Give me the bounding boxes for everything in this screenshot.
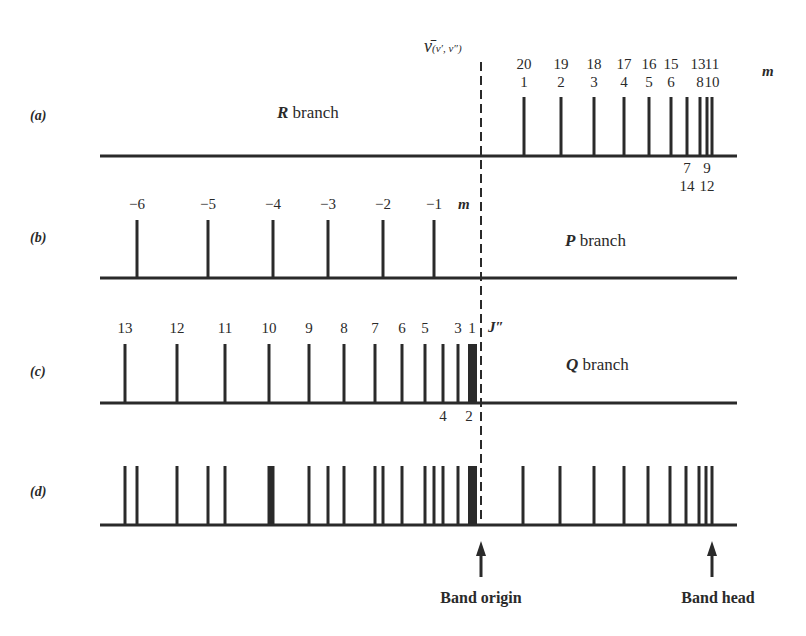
p-branch-title: P branch [565,232,626,249]
row-label-c: (c) [30,365,46,379]
row-label-a: (a) [30,109,46,123]
line-label-a-upper: 15 [664,57,679,72]
nu-bar: ν̄ [424,36,432,56]
line-label-a-upper: 17 [617,57,632,72]
line-label-a-upper: 18 [587,57,602,72]
line-label-a-below1: 7 [683,161,691,176]
line-label-c-upper: 13 [118,321,133,336]
line-label-a-lower: 3 [590,75,598,90]
q-branch-letter: Q [566,355,578,374]
line-label-c-upper: 5 [421,321,429,336]
line-label-b-upper: −5 [200,197,216,212]
line-label-c-upper: 3 [454,321,462,336]
line-label-c-upper: 6 [398,321,406,336]
line-label-a-upper: 20 [517,57,532,72]
line-label-a-lower: 10 [705,75,720,90]
line-label-c-upper: 12 [170,321,185,336]
j-index-label-c: J″ [488,320,504,335]
line-label-a-lower: 1 [520,75,528,90]
line-label-a-upper: 16 [642,57,657,72]
line-label-b-upper: −1 [426,197,442,212]
line-label-b-upper: −4 [265,197,281,212]
line-label-a-lower: 8 [696,75,704,90]
r-branch-suffix: branch [288,103,339,122]
line-label-c-upper: 9 [305,321,313,336]
p-branch-letter: P [565,231,575,250]
line-label-a-below2: 14 [680,179,695,194]
p-branch-suffix: branch [575,231,626,250]
band-origin-symbol: ν̄(v′, v″) [424,37,462,55]
band-origin-caption: Band origin [440,590,521,606]
line-label-a-upper: 19 [554,57,569,72]
q-branch-title: Q branch [566,356,629,373]
line-label-a-lower: 4 [620,75,628,90]
line-label-a-below2: 12 [700,179,715,194]
line-label-a-lower: 2 [557,75,565,90]
line-label-b-upper: −2 [375,197,391,212]
nu-subscript: (v′, v″) [432,42,462,54]
line-label-b-upper: −3 [320,197,336,212]
spectral-line-cluster [468,344,477,403]
band-head-caption: Band head [681,590,754,606]
band-head-arrow-icon-head [707,541,717,556]
line-label-a-upper: 13 [691,57,706,72]
spectral-line-cluster [468,466,477,525]
m-index-label-a: m [762,64,774,79]
r-branch-letter: R [277,103,288,122]
line-label-a-below1: 9 [703,161,711,176]
spectrum-plot [0,0,806,636]
line-label-c-upper: 10 [262,321,277,336]
row-label-b: (b) [30,231,46,245]
line-label-a-upper: 11 [705,57,719,72]
m-index-label-b: m [458,197,470,212]
band-origin-arrow-icon-head [476,541,486,556]
line-label-b-upper: −6 [129,197,145,212]
band-spectrum-figure: ν̄(v′, v″) (a) (b) (c) (d) R branch P br… [0,0,806,636]
line-label-c-upper: 1 [468,321,476,336]
line-label-c-upper: 8 [340,321,348,336]
row-label-d: (d) [30,485,46,499]
line-label-c-below: 2 [465,409,473,424]
line-label-c-upper: 7 [371,321,379,336]
r-branch-title: R branch [277,104,339,121]
line-label-c-below: 4 [439,409,447,424]
line-label-c-upper: 11 [218,321,232,336]
line-label-a-lower: 6 [667,75,675,90]
q-branch-suffix: branch [578,355,629,374]
line-label-a-lower: 5 [645,75,653,90]
